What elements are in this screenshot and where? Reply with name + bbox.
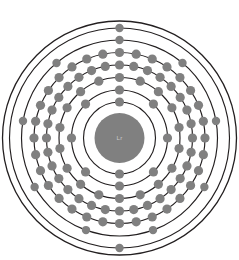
electron-n-27	[47, 105, 56, 114]
electron-n-4	[155, 73, 164, 82]
electron-o-21	[54, 194, 63, 203]
electron-o-24	[31, 150, 40, 159]
electron-n-26	[43, 119, 52, 128]
electron-o-28	[44, 86, 53, 95]
electron-o-31	[82, 54, 91, 63]
electron-n-5	[167, 82, 176, 91]
electron-o-3	[148, 54, 157, 63]
electron-o-26	[31, 117, 40, 126]
electron-n-2	[129, 62, 138, 71]
electron-n-12	[176, 174, 185, 183]
electron-n-19	[87, 201, 96, 210]
electron-n-15	[143, 201, 152, 210]
electron-p-3	[212, 117, 220, 125]
electron-n-13	[167, 185, 176, 194]
electron-n-9	[188, 133, 197, 142]
electron-k-1	[115, 97, 124, 106]
electron-o-1	[115, 48, 124, 57]
electron-l-2	[149, 99, 158, 108]
electron-o-10	[199, 150, 208, 159]
electron-m-16	[63, 103, 72, 112]
electron-l-6	[81, 167, 90, 176]
electron-o-30	[67, 62, 76, 71]
electron-n-31	[87, 66, 96, 75]
electron-m-9	[136, 190, 145, 199]
electron-n-20	[74, 194, 83, 203]
electron-p-7	[30, 183, 38, 191]
bohr-model-diagram: Lr	[0, 0, 239, 260]
electron-o-18	[98, 217, 107, 226]
electron-n-10	[186, 148, 195, 157]
electron-p-2	[178, 59, 186, 67]
electron-l-5	[115, 181, 124, 190]
electron-m-17	[76, 87, 85, 96]
nucleus-element-symbol: Lr	[117, 134, 123, 141]
electron-o-25	[29, 133, 38, 142]
electron-p-1	[115, 36, 123, 44]
electron-o-19	[82, 212, 91, 221]
electron-m-15	[55, 123, 64, 132]
electron-n-6	[176, 93, 185, 102]
electron-m-1	[115, 73, 124, 82]
electron-n-28	[54, 93, 63, 102]
electron-o-12	[186, 181, 195, 190]
electron-m-12	[76, 180, 85, 189]
electron-o-2	[132, 50, 141, 59]
electron-p-4	[200, 183, 208, 191]
electron-q-1	[115, 24, 123, 32]
electron-o-23	[36, 166, 45, 175]
electron-o-27	[36, 101, 45, 110]
electron-l-1	[115, 85, 124, 94]
electron-n-24	[43, 148, 52, 157]
electron-n-32	[101, 62, 110, 71]
electron-n-22	[54, 174, 63, 183]
electron-n-7	[182, 105, 191, 114]
electron-o-5	[175, 73, 184, 82]
electron-n-29	[63, 82, 72, 91]
electron-n-14	[155, 194, 164, 203]
electron-o-13	[175, 194, 184, 203]
electron-p-9	[52, 59, 60, 67]
atom-diagram-canvas: Lr	[0, 0, 239, 260]
electron-o-6	[186, 86, 195, 95]
electron-o-20	[67, 204, 76, 213]
electron-n-18	[101, 205, 110, 214]
electron-o-32	[98, 50, 107, 59]
electron-m-8	[154, 180, 163, 189]
electron-o-8	[199, 117, 208, 126]
electron-o-17	[115, 219, 124, 228]
electron-m-14	[55, 144, 64, 153]
electron-o-16	[132, 217, 141, 226]
electron-p-8	[19, 117, 27, 125]
electron-o-4	[162, 62, 171, 71]
electron-l-8	[81, 99, 90, 108]
electron-n-17	[115, 206, 124, 215]
electron-n-3	[143, 66, 152, 75]
electron-n-23	[47, 161, 56, 170]
electron-p-5	[149, 226, 157, 234]
electron-o-9	[200, 133, 209, 142]
electron-n-1	[115, 60, 124, 69]
electron-l-7	[67, 133, 76, 142]
electron-n-16	[129, 205, 138, 214]
electron-o-22	[44, 181, 53, 190]
electron-q-2	[115, 244, 123, 252]
electron-k-2	[115, 169, 124, 178]
electron-n-21	[63, 185, 72, 194]
electron-l-4	[149, 167, 158, 176]
electron-m-4	[167, 103, 176, 112]
electron-m-11	[94, 190, 103, 199]
electron-o-11	[194, 166, 203, 175]
electron-m-10	[115, 194, 124, 203]
electron-m-2	[136, 77, 145, 86]
electron-m-3	[154, 87, 163, 96]
electron-m-18	[94, 77, 103, 86]
electron-n-11	[182, 161, 191, 170]
electron-o-14	[162, 204, 171, 213]
electron-m-6	[174, 144, 183, 153]
electron-n-30	[74, 73, 83, 82]
electron-o-29	[54, 73, 63, 82]
electron-n-25	[42, 133, 51, 142]
electron-o-7	[194, 101, 203, 110]
electron-m-13	[63, 164, 72, 173]
